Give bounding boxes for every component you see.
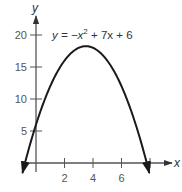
y-tick-label: 20 (15, 29, 27, 41)
x-tick-label: 6 (118, 172, 124, 184)
tick-labels: 2465101520 (15, 29, 125, 184)
y-axis-label: y (31, 1, 39, 15)
equation-lhs: y = −x (51, 29, 85, 41)
x-axis-label: x (173, 156, 181, 170)
parabola-curve (22, 46, 149, 173)
equation-rhs: + 7x + 6 (88, 29, 133, 41)
y-tick-label: 5 (21, 125, 27, 137)
x-tick-label: 4 (90, 172, 96, 184)
x-tick-label: 2 (61, 172, 67, 184)
tick-marks (30, 35, 150, 168)
equation-label: y = −x2 + 7x + 6 (51, 27, 133, 41)
y-tick-label: 10 (15, 93, 27, 105)
y-tick-label: 15 (15, 61, 27, 73)
parabola-chart: 2465101520 y x y = −x2 + 7x + 6 (0, 0, 182, 192)
